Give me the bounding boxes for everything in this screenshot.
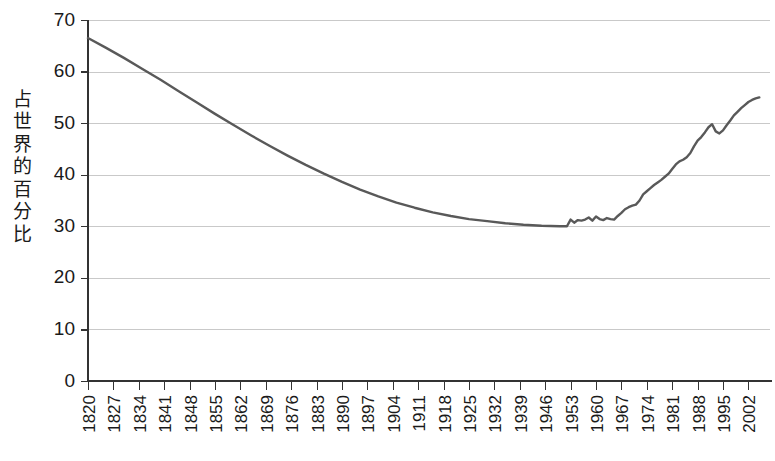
x-axis-tick-label: 1981 bbox=[664, 395, 683, 433]
x-axis-tick-label: 1995 bbox=[715, 395, 734, 433]
x-axis-tick-label: 1953 bbox=[563, 395, 582, 433]
y-axis-title-char: 占 bbox=[13, 88, 32, 110]
y-axis-title-char: 界 bbox=[13, 133, 32, 155]
x-axis-tick-label: 1911 bbox=[410, 395, 429, 432]
x-axis-tick-label: 1876 bbox=[283, 395, 302, 433]
y-axis-tick-label: 20 bbox=[54, 266, 75, 287]
x-axis-tick-label: 1841 bbox=[156, 395, 175, 433]
x-axis-tick-label: 1967 bbox=[613, 395, 632, 433]
x-axis-tick-label: 1932 bbox=[486, 395, 505, 433]
x-axis-tick-labels: 1820182718341841184818551862186918761883… bbox=[80, 395, 759, 433]
x-axis-tick-label: 1820 bbox=[80, 395, 99, 433]
chart-container: 706050403020100 182018271834184118481855… bbox=[0, 0, 775, 461]
y-axis-tick-label: 50 bbox=[54, 112, 75, 133]
y-axis-tick-label: 0 bbox=[64, 370, 75, 391]
x-axis-tick-label: 1855 bbox=[207, 395, 226, 433]
x-axis-tick-label: 1960 bbox=[588, 395, 607, 433]
x-axis-tick-label: 1988 bbox=[690, 395, 709, 433]
y-axis-title: 占世界的百分比 bbox=[13, 88, 32, 245]
x-axis-tick-label: 1869 bbox=[258, 395, 277, 433]
y-axis-title-char: 世 bbox=[13, 110, 32, 132]
x-axis-tick-label: 1939 bbox=[512, 395, 531, 433]
y-axis-title-char: 的 bbox=[13, 155, 32, 177]
y-axis-title-char: 百 bbox=[13, 178, 32, 200]
y-axis-tick-label: 60 bbox=[54, 60, 75, 81]
x-axis-tick-label: 1925 bbox=[461, 395, 480, 433]
y-axis-tick-labels: 706050403020100 bbox=[54, 9, 75, 391]
y-axis-title-char: 比 bbox=[13, 223, 32, 245]
line-chart: 706050403020100 182018271834184118481855… bbox=[0, 0, 775, 461]
y-axis-tick-label: 10 bbox=[54, 318, 75, 339]
x-axis-tick-label: 1827 bbox=[105, 395, 124, 433]
x-axis-tick-label: 1883 bbox=[309, 395, 328, 433]
x-axis-tick-label: 1862 bbox=[232, 395, 251, 433]
x-axis-tick-label: 1946 bbox=[537, 395, 556, 433]
x-axis-tickmarks bbox=[89, 381, 749, 390]
x-axis-tick-label: 1974 bbox=[639, 395, 658, 433]
x-axis-tick-label: 1904 bbox=[385, 395, 404, 433]
y-axis-tickmarks bbox=[81, 21, 88, 382]
x-axis-tick-label: 1897 bbox=[359, 395, 378, 433]
x-axis-tick-label: 1890 bbox=[334, 395, 353, 433]
x-axis-tick-label: 1918 bbox=[436, 395, 455, 433]
x-axis-tick-label: 1834 bbox=[131, 395, 150, 433]
y-axis-title-char: 分 bbox=[13, 200, 32, 222]
y-axis-tick-label: 40 bbox=[54, 163, 75, 184]
y-axis-tick-label: 30 bbox=[54, 215, 75, 236]
data-series-line bbox=[88, 38, 759, 226]
x-axis-tick-label: 1848 bbox=[182, 395, 201, 433]
x-axis-tick-label: 2002 bbox=[740, 395, 759, 433]
y-axis-tick-label: 70 bbox=[54, 9, 75, 30]
